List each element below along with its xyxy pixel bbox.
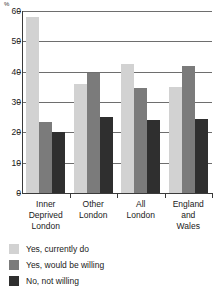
y-tick-label: 40 bbox=[5, 68, 21, 77]
bar bbox=[147, 120, 160, 193]
x-tick-mark bbox=[165, 193, 166, 198]
bar-group bbox=[22, 11, 70, 193]
bar-group bbox=[70, 11, 118, 193]
y-tick-label: 30 bbox=[5, 98, 21, 107]
bar bbox=[52, 132, 65, 193]
legend-swatch bbox=[9, 276, 19, 286]
x-tick-mark bbox=[70, 193, 71, 198]
x-axis-label: EnglandandWales bbox=[165, 199, 213, 232]
x-tick-mark bbox=[117, 193, 118, 198]
legend-swatch bbox=[9, 260, 19, 270]
legend-swatch bbox=[9, 244, 19, 254]
bar bbox=[26, 17, 39, 193]
x-axis-label: InnerDeprivedLondon bbox=[22, 199, 70, 232]
bar bbox=[87, 73, 100, 193]
bar-group bbox=[165, 11, 213, 193]
chart-legend: Yes, currently doYes, would be willingNo… bbox=[9, 241, 214, 289]
bar-group bbox=[117, 11, 165, 193]
y-tick-label: 10 bbox=[5, 159, 21, 168]
legend-item: Yes, currently do bbox=[9, 241, 214, 257]
y-axis-line bbox=[22, 11, 23, 194]
bar bbox=[182, 66, 195, 193]
legend-item: No, not willing bbox=[9, 273, 214, 289]
bar bbox=[169, 87, 182, 193]
y-tick-label: 50 bbox=[5, 37, 21, 46]
plot-area bbox=[22, 11, 212, 193]
bar bbox=[100, 117, 113, 193]
bar bbox=[39, 122, 52, 193]
legend-label: Yes, currently do bbox=[26, 244, 89, 254]
x-axis-label: OtherLondon bbox=[70, 199, 118, 221]
x-axis-label: AllLondon bbox=[117, 199, 165, 221]
bar bbox=[134, 88, 147, 193]
y-tick-label: 60 bbox=[5, 7, 21, 16]
x-tick-mark bbox=[212, 193, 213, 198]
legend-item: Yes, would be willing bbox=[9, 257, 214, 273]
legend-label: No, not willing bbox=[26, 276, 79, 286]
bar bbox=[121, 64, 134, 193]
x-axis-category-labels: InnerDeprivedLondonOtherLondonAllLondonE… bbox=[22, 199, 212, 241]
y-tick-label: 20 bbox=[5, 128, 21, 137]
bar bbox=[195, 119, 208, 193]
legend-label: Yes, would be willing bbox=[26, 260, 104, 270]
bar bbox=[74, 84, 87, 193]
bar-chart: % 0102030405060 InnerDeprivedLondonOther… bbox=[0, 0, 219, 292]
y-tick-label: 0 bbox=[5, 189, 21, 198]
